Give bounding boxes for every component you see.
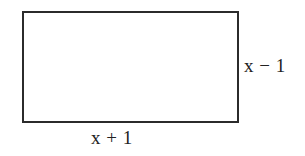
figure-canvas: x − 1 x + 1 — [0, 0, 305, 156]
height-dimension-label: x − 1 — [244, 56, 286, 75]
rectangle-shape — [22, 11, 239, 123]
width-dimension-label: x + 1 — [91, 128, 133, 147]
